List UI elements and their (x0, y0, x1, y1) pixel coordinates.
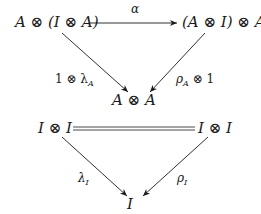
rho-i-label: ρI (177, 172, 187, 187)
node-i-tensor-i-left: I ⊗ I (38, 121, 72, 136)
label-main: ρ (177, 171, 184, 185)
label-main: λ (78, 171, 86, 185)
rho-tensor-one-label: ρA ⊗ 1 (176, 73, 214, 88)
label-sub: I (86, 178, 89, 187)
one-tensor-lambda-label: 1 ⊗ λA (55, 73, 94, 88)
node-i: I (127, 197, 133, 212)
node-a-tensor-a: A ⊗ A (112, 93, 156, 108)
node-i-tensor-i-right: I ⊗ I (198, 121, 232, 136)
lambda-i-arrow (62, 137, 127, 196)
lambda-i-label: λI (78, 172, 89, 187)
label-main: 1 ⊗ λ (55, 72, 88, 86)
label-sub: I (184, 178, 187, 187)
node-a-tensor-i-tensor-a: A ⊗ (I ⊗ A) (15, 15, 99, 30)
label-main: ρ (176, 72, 183, 86)
alpha-label: α (131, 3, 139, 15)
label-tail: ⊗ 1 (189, 72, 214, 86)
label-sub: A (88, 79, 94, 88)
rho-i-arrow (143, 137, 208, 196)
node-a-tensor-i-tensor-a-assoc: (A ⊗ I) ⊗ A (182, 15, 261, 30)
